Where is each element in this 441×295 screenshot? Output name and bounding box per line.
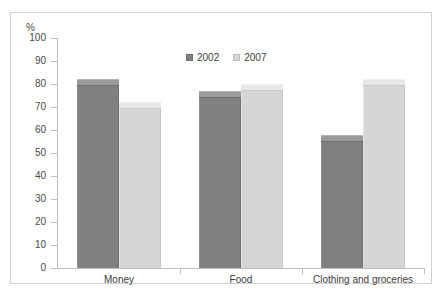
y-tick-mark: [51, 153, 57, 154]
bar-2007-clothing-and-groceries: [363, 79, 405, 268]
chart-legend: 20022007: [186, 52, 267, 63]
x-separator-tick: [424, 269, 425, 274]
bar-body: [199, 91, 241, 268]
y-tick-mark: [51, 61, 57, 62]
y-tick-mark: [51, 222, 57, 223]
bar-body: [241, 84, 283, 268]
bar-cap: [241, 84, 283, 91]
chart-figure: % 1009080706050403020100 MoneyFoodClothi…: [0, 0, 441, 295]
y-tick-mark: [51, 84, 57, 85]
y-tick-mark: [51, 245, 57, 246]
y-tick-mark: [51, 107, 57, 108]
bar-cap: [119, 102, 161, 109]
bar-2002-money: [77, 79, 119, 268]
y-tick-label: 30: [12, 193, 46, 204]
bar-2007-money: [119, 102, 161, 268]
bar-cap: [363, 79, 405, 86]
y-tick-label: 10: [12, 239, 46, 250]
y-tick-label: 100: [12, 32, 46, 43]
category-label: Money: [58, 274, 180, 285]
y-tick-mark: [51, 38, 57, 39]
bar-body: [363, 79, 405, 268]
legend-item-2002: 2002: [186, 52, 219, 63]
y-tick-label: 60: [12, 124, 46, 135]
legend-item-2007: 2007: [233, 52, 266, 63]
category-label: Food: [180, 274, 302, 285]
y-tick-label: 40: [12, 170, 46, 181]
y-tick-mark: [51, 130, 57, 131]
y-tick-label: 90: [12, 55, 46, 66]
x-axis-line: [57, 268, 425, 269]
bar-2007-food: [241, 84, 283, 268]
bar-cap: [77, 79, 119, 86]
y-tick-label: 50: [12, 147, 46, 158]
category-label: Clothing and groceries: [302, 274, 424, 285]
y-tick-mark: [51, 268, 57, 269]
bar-body: [77, 79, 119, 268]
bar-body: [119, 102, 161, 268]
y-tick-label: 70: [12, 101, 46, 112]
y-tick-label: 0: [12, 262, 46, 273]
bar-2002-clothing-and-groceries: [321, 135, 363, 268]
bar-cap: [199, 91, 241, 98]
legend-label: 2002: [197, 52, 219, 63]
bar-cap: [321, 135, 363, 142]
y-tick-label: 80: [12, 78, 46, 89]
legend-label: 2007: [244, 52, 266, 63]
legend-swatch-2002-icon: [186, 54, 193, 61]
legend-swatch-2007-icon: [233, 54, 240, 61]
bar-2002-food: [199, 91, 241, 268]
y-tick-label: 20: [12, 216, 46, 227]
y-tick-mark: [51, 176, 57, 177]
bar-body: [321, 135, 363, 268]
y-tick-mark: [51, 199, 57, 200]
plot-area: [58, 38, 424, 268]
